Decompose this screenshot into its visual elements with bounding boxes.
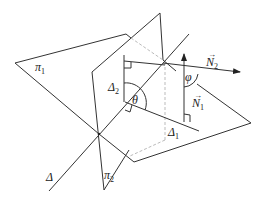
intersection-point: [98, 133, 100, 135]
label-n2: → N2: [205, 50, 218, 71]
label-delta1: Δ1: [167, 125, 179, 141]
label-pi2: π2: [104, 168, 114, 184]
label-phi: φ: [185, 70, 192, 84]
label-n1: → N1: [191, 91, 204, 112]
line-delta: [49, 34, 189, 191]
diagram-canvas: π1 π2 Δ Δ2 Δ1 θ φ → N2 → N1: [0, 0, 265, 200]
plane-pi2: [92, 13, 163, 190]
label-delta: Δ: [45, 170, 53, 184]
label-pi1: π1: [35, 60, 45, 76]
svg-text:N1: N1: [191, 96, 204, 112]
right-angle-n1: [184, 114, 190, 122]
normal-n2-arrow: [163, 63, 240, 72]
label-theta: θ: [132, 93, 138, 107]
label-delta2: Δ2: [107, 80, 119, 96]
svg-text:N2: N2: [205, 55, 218, 71]
